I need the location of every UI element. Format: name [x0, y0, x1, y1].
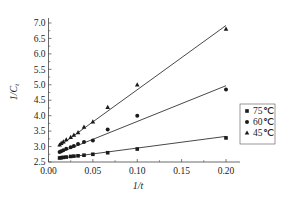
- x-tick-label: 0.10: [129, 166, 146, 176]
- y-tick-label: 3.5: [34, 126, 46, 136]
- svg-text:1/Ct: 1/Ct: [8, 83, 21, 100]
- x-axis-title: 1/t: [133, 180, 144, 191]
- series-triangle: [57, 25, 228, 146]
- y-tick-label: 6.5: [34, 34, 46, 44]
- y-tick-label: 4.0: [34, 111, 46, 121]
- y-tick-label: 5.0: [34, 80, 46, 90]
- y-tick-label: 6.0: [34, 49, 46, 59]
- chart: 0.000.050.100.150.20 2.53.03.54.04.55.05…: [0, 0, 295, 200]
- x-tick-label: 0.20: [218, 166, 235, 176]
- legend: 75℃60℃45℃: [240, 104, 275, 144]
- svg-text:60℃: 60℃: [253, 117, 274, 127]
- y-tick-label: 7.0: [34, 18, 46, 28]
- svg-text:45℃: 45℃: [253, 128, 274, 138]
- x-tick-label: 0.00: [40, 166, 57, 176]
- y-axis: 2.53.03.54.04.55.05.56.06.57.0: [34, 18, 52, 167]
- y-tick-label: 5.5: [34, 65, 46, 75]
- y-tick-label: 3.0: [34, 142, 46, 152]
- series-square: [58, 136, 228, 160]
- y-tick-label: 2.5: [34, 157, 46, 167]
- x-tick-label: 0.15: [173, 166, 190, 176]
- y-tick-label: 4.5: [34, 95, 46, 105]
- series-circle: [58, 86, 228, 154]
- x-axis: 0.000.050.100.150.20: [40, 159, 240, 176]
- y-axis-title: 1/Ct: [8, 83, 21, 100]
- svg-text:75℃: 75℃: [253, 106, 274, 116]
- x-tick-label: 0.05: [85, 166, 102, 176]
- plot-area: [57, 25, 228, 159]
